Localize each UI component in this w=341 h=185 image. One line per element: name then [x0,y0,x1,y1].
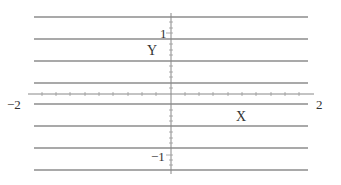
y-axis-label: Y [147,44,157,57]
x-axis-label: X [236,110,246,123]
y-tick-label-1: 1 [160,27,167,40]
x-tick-label-min: −2 [7,98,21,111]
plot-area [0,0,341,185]
x-tick-label-max: 2 [316,98,323,111]
y-tick-label-neg1: −1 [151,150,165,163]
